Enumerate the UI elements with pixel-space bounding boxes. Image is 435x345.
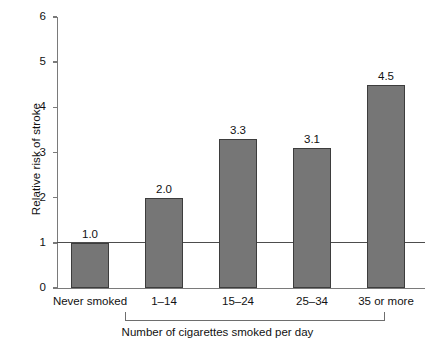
y-tick-label-0: 0	[24, 282, 46, 294]
bar-value-label-0: 1.0	[60, 228, 120, 240]
bar-value-label-2: 3.3	[208, 124, 268, 136]
bar-2	[219, 139, 257, 288]
bar-1	[145, 198, 183, 288]
y-tick-3	[53, 152, 57, 153]
y-tick-label-5: 5	[24, 56, 46, 68]
x-category-label-4: 35 or more	[331, 295, 435, 308]
bar-3	[293, 148, 331, 288]
y-tick-label-1: 1	[24, 237, 46, 249]
bar-0	[71, 243, 109, 288]
y-tick-2	[53, 197, 57, 198]
y-tick-label-3: 3	[24, 147, 46, 159]
x-axis-line	[57, 288, 425, 289]
bar-value-label-3: 3.1	[282, 133, 342, 145]
y-tick-6	[53, 16, 57, 17]
x-axis-title: Number of cigarettes smoked per day	[0, 326, 435, 338]
y-axis-line	[57, 17, 58, 289]
y-axis-title: Relative risk of stroke	[30, 59, 42, 259]
bar-chart: Relative risk of stroke 0123456 1.0Never…	[0, 0, 435, 345]
y-tick-0	[53, 287, 57, 288]
bar-4	[367, 85, 405, 288]
y-tick-5	[53, 61, 57, 62]
bar-value-label-4: 4.5	[356, 70, 416, 82]
y-tick-label-6: 6	[24, 11, 46, 23]
category-group-bracket	[125, 312, 385, 321]
y-tick-label-2: 2	[24, 192, 46, 204]
y-tick-label-4: 4	[24, 101, 46, 113]
bar-value-label-1: 2.0	[134, 183, 194, 195]
y-tick-4	[53, 107, 57, 108]
